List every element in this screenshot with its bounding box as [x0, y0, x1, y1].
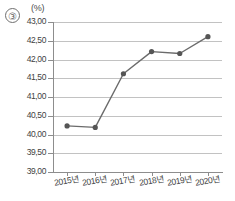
y-axis-tick — [48, 153, 53, 154]
data-point-marker — [205, 34, 210, 39]
y-axis-tick — [48, 97, 53, 98]
y-axis-tick — [48, 78, 53, 79]
y-axis-tick — [48, 172, 53, 173]
data-point-marker — [149, 49, 154, 54]
data-point-marker — [177, 51, 182, 56]
y-axis-tick — [48, 60, 53, 61]
y-axis-tick — [48, 22, 53, 23]
data-point-marker — [64, 123, 69, 128]
y-axis-tick — [48, 41, 53, 42]
y-axis-tick — [48, 116, 53, 117]
chart-figure: ③ (%) 43,0042,5042,0041,5041,0040,5040,0… — [0, 0, 235, 201]
y-axis-tick — [48, 135, 53, 136]
data-point-marker — [121, 71, 126, 76]
line-series — [0, 0, 235, 201]
data-point-marker — [93, 125, 98, 130]
